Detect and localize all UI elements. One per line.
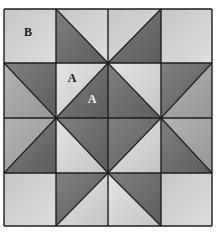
quilt-square <box>161 9 212 63</box>
label-b-0: B <box>24 25 32 39</box>
quilt-square <box>161 173 212 226</box>
quilt-square <box>4 173 56 226</box>
label-a-1: A <box>68 71 77 85</box>
label-a-2: A <box>88 92 97 106</box>
quilt-diagram: BAA <box>0 0 216 234</box>
